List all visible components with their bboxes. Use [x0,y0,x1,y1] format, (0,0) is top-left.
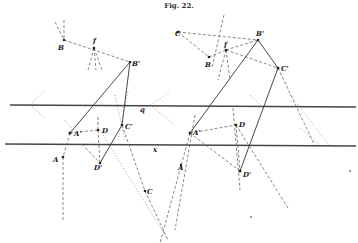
label-B: B [204,60,211,69]
label-C-prime: C' [125,122,133,131]
label-D: D [238,120,246,129]
figure-title: Fig. 22. [0,1,358,10]
label-C-prime: C' [281,64,289,73]
left-construction: B f B' A' A D D' C' C q x [30,20,175,240]
label-B: B [57,43,64,52]
label-A-prime: A' [73,129,82,138]
label-C: C [147,187,153,196]
label-f: f [92,36,98,45]
label-x: x [152,145,158,154]
label-f: f [223,40,229,49]
label-B-prime: B' [131,59,140,68]
right-construction: C f B B' C' A' A D D' [160,15,351,243]
label-B-prime: B' [255,29,264,38]
upper-ground-line [10,105,356,107]
label-A: A [52,155,59,164]
geometric-construction-diagram: B f B' A' A D D' C' C q x [0,0,358,243]
label-A: A [177,163,184,172]
label-D-prime: D' [242,170,251,179]
label-D: D [101,126,109,135]
label-q: q [140,105,145,114]
label-C: C [175,29,181,38]
lower-ground-line [5,144,356,146]
label-A-prime: A' [192,128,201,137]
figure-22: Fig. 22. [0,0,358,243]
label-D-prime: D' [93,163,102,172]
